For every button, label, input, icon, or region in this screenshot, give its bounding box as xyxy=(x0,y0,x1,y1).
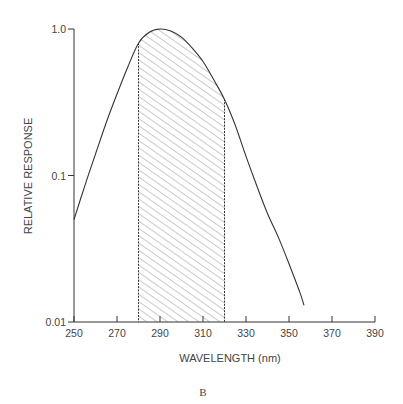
x-tick-label: 330 xyxy=(237,327,255,339)
y-tick-label: 1.0 xyxy=(51,23,66,35)
x-axis-title: WAVELENGTH (nm) xyxy=(179,352,280,364)
x-tick-label: 310 xyxy=(194,327,212,339)
x-tick-label: 350 xyxy=(280,327,298,339)
x-tick-label: 370 xyxy=(323,327,341,339)
y-tick-label: 0.01 xyxy=(46,316,67,328)
x-tick-label: 290 xyxy=(151,327,169,339)
y-axis-title: RELATIVE RESPONSE xyxy=(22,118,34,235)
shaded-band xyxy=(74,29,304,322)
y-tick-label: 0.1 xyxy=(51,170,66,182)
response-chart: 1.0 0.1 0.01 250270290310330350370390 RE… xyxy=(0,0,403,404)
y-axis: 1.0 0.1 0.01 xyxy=(46,23,74,328)
x-axis: 250270290310330350370390 xyxy=(65,316,384,339)
panel-label: B xyxy=(199,386,206,398)
x-tick-label: 270 xyxy=(108,327,126,339)
x-tick-label: 250 xyxy=(65,327,83,339)
x-tick-label: 390 xyxy=(366,327,384,339)
